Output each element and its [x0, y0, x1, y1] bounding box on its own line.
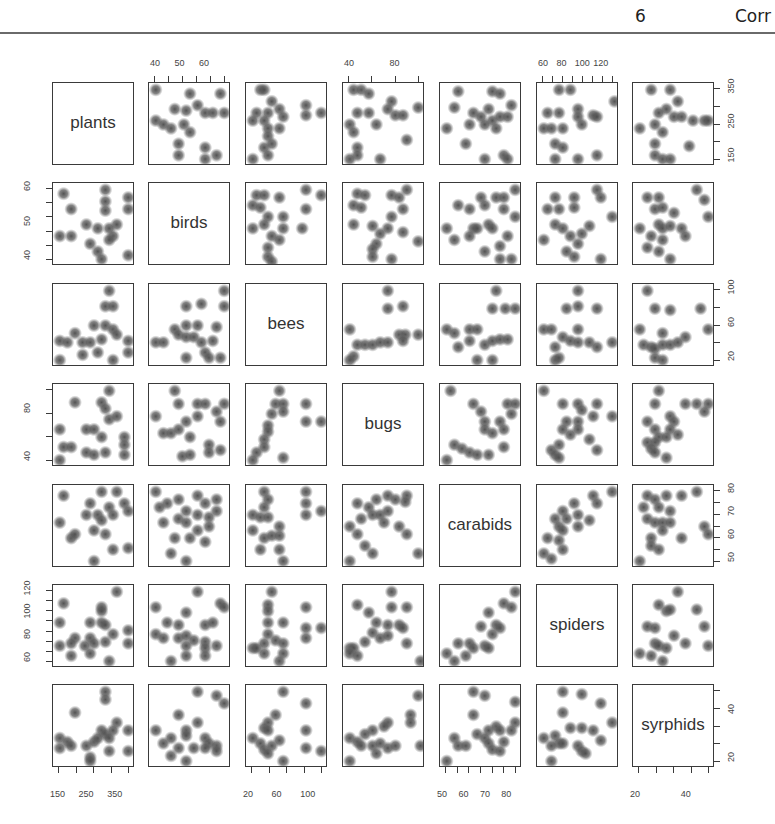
data-point — [183, 87, 197, 101]
data-point — [369, 747, 383, 761]
data-point — [57, 187, 71, 201]
axis-tick — [46, 259, 52, 260]
axis-tick — [714, 159, 720, 160]
axis-tick — [673, 767, 674, 773]
data-point — [276, 616, 290, 630]
axis-tick — [582, 76, 583, 82]
data-point — [414, 739, 425, 753]
data-point — [261, 510, 275, 524]
axis-tick — [457, 767, 458, 773]
axis-tick — [592, 76, 593, 82]
axis-tick — [154, 76, 155, 82]
data-point — [213, 443, 227, 457]
data-point — [579, 747, 593, 761]
data-point — [675, 489, 689, 503]
data-point — [482, 448, 496, 462]
data-point — [110, 485, 124, 499]
data-point — [571, 322, 585, 336]
axis-tick — [46, 600, 52, 601]
data-point — [594, 252, 608, 265]
data-point — [447, 101, 461, 115]
data-point — [652, 245, 666, 259]
axis-tick — [46, 436, 52, 437]
data-point — [556, 141, 570, 155]
left-tick-label: 80 — [22, 629, 32, 639]
data-point — [68, 706, 82, 720]
data-point — [168, 531, 182, 545]
data-point — [411, 547, 424, 561]
data-point — [358, 188, 372, 202]
data-point — [648, 302, 662, 316]
data-point — [153, 500, 167, 514]
data-point — [172, 708, 186, 722]
data-point — [556, 706, 570, 720]
axis-tick — [210, 76, 211, 82]
data-point — [470, 322, 484, 336]
right-tick-label: 20 — [726, 351, 736, 361]
data-point — [53, 516, 67, 530]
right-tick-label: 250 — [726, 113, 736, 128]
data-point — [246, 152, 260, 165]
data-point — [183, 448, 197, 462]
left-tick-label: 60 — [22, 181, 32, 191]
axis-tick — [714, 289, 720, 290]
diagonal-panel-bugs: bugs — [342, 383, 424, 466]
data-point — [102, 384, 116, 398]
data-point — [164, 547, 178, 561]
axis-tick — [395, 76, 396, 82]
axis-tick — [304, 767, 305, 773]
data-point — [272, 191, 286, 205]
data-point — [179, 606, 193, 620]
data-point — [121, 744, 134, 758]
data-point — [501, 110, 515, 124]
bottom-tick-label: 50 — [437, 789, 447, 799]
scatter-panel-bees-vs-plants — [52, 283, 134, 366]
data-point — [276, 754, 290, 767]
data-point — [396, 621, 410, 635]
data-point — [671, 585, 685, 599]
axis-tick — [515, 767, 516, 773]
data-point — [257, 647, 271, 661]
data-point — [179, 649, 193, 663]
axis-tick — [612, 76, 613, 82]
axis-tick — [46, 389, 52, 390]
data-point — [102, 744, 116, 758]
data-point — [64, 739, 78, 753]
data-point — [594, 696, 608, 710]
data-point — [385, 600, 399, 614]
data-point — [633, 221, 647, 235]
data-point — [489, 121, 503, 135]
left-tick-label: 50 — [22, 215, 32, 225]
axis-tick — [371, 76, 372, 82]
right-tick-label: 80 — [726, 483, 736, 493]
data-point — [350, 649, 364, 663]
right-tick-label: 60 — [726, 529, 736, 539]
data-point — [633, 322, 647, 336]
data-point — [299, 741, 313, 755]
left-tick-label: 40 — [22, 250, 32, 260]
scatter-panel-syrphids-vs-spiders — [536, 684, 618, 767]
axis-tick — [46, 231, 52, 232]
data-point — [179, 351, 193, 365]
axis-tick — [714, 325, 720, 326]
data-point — [411, 689, 424, 703]
data-point — [91, 346, 105, 360]
data-point — [106, 543, 120, 557]
data-point — [656, 523, 670, 537]
data-point — [299, 202, 313, 216]
data-point — [447, 326, 461, 340]
data-point — [257, 83, 271, 97]
axis-tick — [602, 76, 603, 82]
data-point — [95, 332, 109, 346]
data-point — [53, 422, 67, 436]
data-point — [381, 629, 395, 643]
data-point — [466, 708, 480, 722]
axis-tick — [468, 767, 469, 773]
right-tick-label: 150 — [726, 147, 736, 162]
data-point — [83, 647, 97, 661]
scatter-panel-birds-vs-carabids — [439, 182, 521, 265]
axis-tick — [714, 88, 720, 89]
scatter-panel-plants-vs-carabids — [439, 82, 521, 165]
data-point — [482, 641, 496, 655]
data-point — [164, 654, 178, 667]
